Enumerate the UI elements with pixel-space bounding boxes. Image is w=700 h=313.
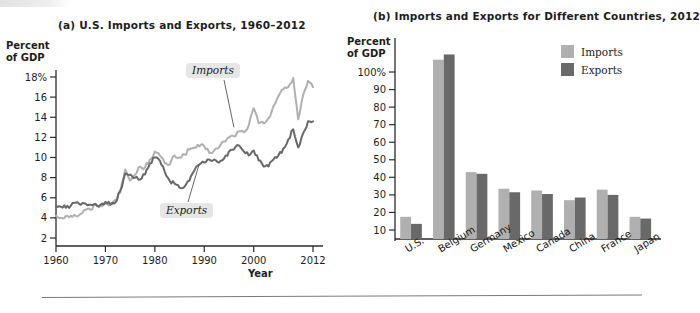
chart-a-canvas: 18%161412108642196019701980199020002012 <box>0 0 345 313</box>
chart-a-ytick-label: 2 <box>41 233 47 244</box>
chart-b-canvas: 100%908070605040302010 <box>345 0 684 313</box>
chart-a-ytick-label: 12 <box>34 132 47 143</box>
chart-a-ytick-label: 8 <box>41 172 47 183</box>
chart-a-annotation-exports: Exports <box>160 203 213 218</box>
chart-b-ytick-label: 100% <box>357 67 386 78</box>
chart-a-xtick-label: 2000 <box>241 255 266 266</box>
chart-b-bar-belgium-imports <box>433 60 444 239</box>
chart-b-bar-china-exports <box>575 198 586 239</box>
chart-a-xtick-label: 2012 <box>300 255 325 266</box>
legend-swatch-exports <box>561 63 574 76</box>
chart-a-ytick-label: 14 <box>34 112 47 123</box>
chart-b-ytick-label: 30 <box>373 189 386 200</box>
chart-b-ytick-label: 20 <box>373 207 386 218</box>
chart-a-ytick-label: 18% <box>25 72 47 83</box>
chart-a-ytick-label: 6 <box>41 192 47 203</box>
chart-panel-b: (b) Imports and Exports for Different Co… <box>345 0 684 313</box>
chart-a-series-line-imports <box>56 78 313 218</box>
legend-swatch-imports <box>561 45 574 58</box>
chart-b-bar-belgium-exports <box>444 54 455 239</box>
chart-a-annotation-imports: Imports <box>186 63 240 78</box>
chart-a-xtick-label: 1970 <box>93 255 118 266</box>
chart-b-bar-france-exports <box>608 195 619 239</box>
chart-b-ytick-label: 40 <box>373 172 386 183</box>
chart-a-ytick-label: 10 <box>34 152 47 163</box>
chart-b-bar-germany-exports <box>477 174 488 239</box>
chart-b-bar-canada-exports <box>542 194 553 239</box>
chart-a-leader-line-imports <box>224 80 234 127</box>
chart-a-xtick-label: 1990 <box>192 255 217 266</box>
chart-a-series-line-exports <box>56 121 313 208</box>
chart-b-legend-item[interactable]: Exports <box>561 63 623 76</box>
chart-b-bar-us-imports <box>400 217 411 239</box>
chart-a-ytick-label: 16 <box>34 92 47 103</box>
chart-b-ytick-label: 10 <box>373 225 386 236</box>
legend-label-exports: Exports <box>581 64 622 76</box>
chart-b-legend: ImportsExports <box>561 45 623 81</box>
chart-b-ytick-label: 90 <box>373 84 386 95</box>
chart-b-legend-item[interactable]: Imports <box>561 45 623 58</box>
chart-a-x-axis-name: Year <box>248 268 273 279</box>
chart-b-ytick-label: 60 <box>373 137 386 148</box>
chart-a-leader-line-exports <box>188 164 199 202</box>
chart-b-bar-france-imports <box>597 190 608 239</box>
chart-a-xtick-label: 1960 <box>43 255 68 266</box>
chart-panel-a: (a) U.S. Imports and Exports, 1960–2012 … <box>0 0 345 313</box>
chart-a-xtick-label: 1980 <box>142 255 167 266</box>
chart-b-ytick-label: 70 <box>373 119 386 130</box>
chart-b-ytick-label: 80 <box>373 102 386 113</box>
chart-a-ytick-label: 4 <box>41 212 47 223</box>
chart-b-ytick-label: 50 <box>373 154 386 165</box>
legend-label-imports: Imports <box>581 46 623 58</box>
